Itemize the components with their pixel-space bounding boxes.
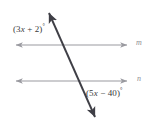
angle-label-top-variable: x xyxy=(21,24,25,34)
angle-label-top: (3x + 2)° xyxy=(13,23,45,34)
geometry-canvas xyxy=(0,0,155,131)
geometry-figure: (3x + 2)° (5x − 40)° m n xyxy=(0,0,155,131)
line-label-m: m xyxy=(136,38,142,47)
angle-label-bottom-variable: x xyxy=(94,88,98,98)
angle-label-bottom-constant: 40 xyxy=(108,88,117,98)
degree-icon: ° xyxy=(42,23,45,29)
angle-label-bottom-operator: − xyxy=(100,88,105,98)
transversal-line xyxy=(49,13,95,117)
line-label-n: n xyxy=(137,74,141,83)
angle-label-bottom: (5x − 40)° xyxy=(86,87,123,98)
degree-icon: ° xyxy=(120,87,123,93)
angle-label-top-operator: + xyxy=(27,24,32,34)
